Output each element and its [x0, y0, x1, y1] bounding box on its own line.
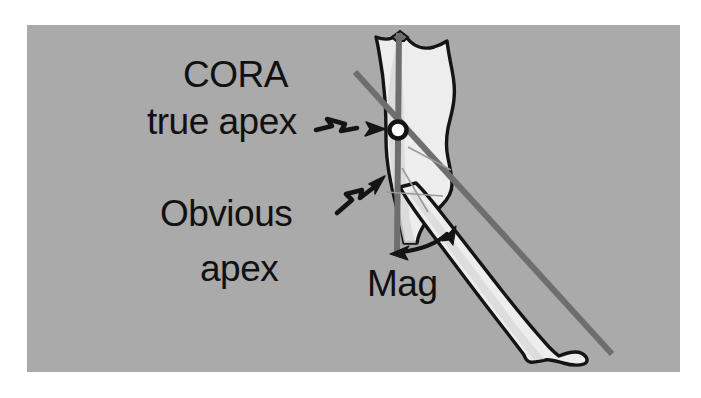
cora-deformity-figure: CORA true apex Obvious apex Mag [0, 0, 701, 398]
figure-canvas [0, 0, 701, 398]
label-obvious-apex-line1: Obvious [160, 195, 292, 232]
label-cora: CORA [183, 56, 288, 93]
true-apex-point-marker [390, 122, 407, 139]
label-obvious-apex-line2: apex [200, 250, 278, 287]
proximal-mechanical-axis-line [397, 33, 399, 255]
label-true-apex: true apex [147, 103, 297, 140]
label-mag: Mag [367, 265, 437, 302]
